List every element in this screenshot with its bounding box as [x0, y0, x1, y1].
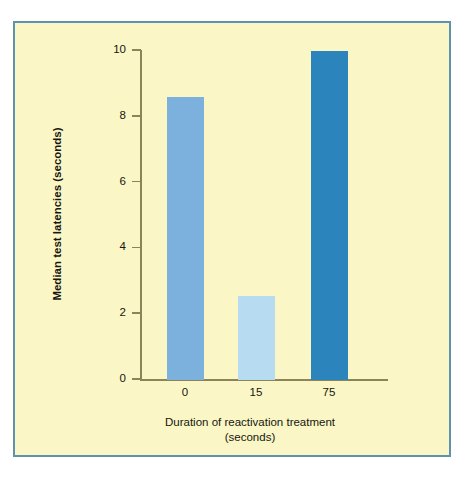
bar-75	[311, 51, 348, 380]
figure-root: 0246810 01575 Duration of reactivation t…	[0, 0, 466, 481]
bars-layer	[15, 23, 449, 380]
y-axis-title: Median test latencies (seconds)	[51, 104, 63, 324]
x-axis-title: Duration of reactivation treatment (seco…	[85, 415, 415, 445]
bar-15	[238, 296, 275, 380]
figure-frame: 0246810 01575 Duration of reactivation t…	[13, 21, 451, 457]
x-axis-tick-label: 75	[299, 387, 359, 399]
bar-0	[167, 97, 204, 380]
x-axis-title-line2: (seconds)	[85, 430, 415, 445]
x-axis-tick-label: 15	[226, 387, 286, 399]
plot-area: 0246810 01575 Duration of reactivation t…	[15, 23, 449, 455]
x-axis-title-line1: Duration of reactivation treatment	[165, 416, 335, 428]
x-axis-tick-label: 0	[155, 387, 215, 399]
